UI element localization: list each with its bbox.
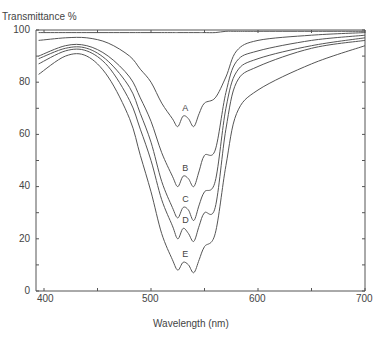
x-tick-400: 400 (37, 293, 54, 304)
plot-frame (36, 30, 365, 291)
curve-label-b: B (182, 163, 188, 173)
x-tick-600: 600 (249, 293, 266, 304)
x-tick-700: 700 (356, 293, 373, 304)
curve-top-reference- (39, 31, 365, 32)
y-tick-80: 80 (0, 76, 30, 87)
y-axis-title: Transmittance % (2, 11, 77, 22)
curve-label-d: D (182, 215, 189, 225)
y-tick-60: 60 (0, 128, 30, 139)
axis-ticks (36, 30, 365, 291)
y-tick-20: 20 (0, 233, 30, 244)
curve-b (39, 35, 365, 187)
y-tick-0: 0 (0, 285, 30, 296)
curve-d (39, 40, 365, 241)
curve-label-a: A (182, 103, 188, 113)
curve-c (39, 38, 365, 221)
x-axis-title: Wavelength (nm) (153, 318, 229, 329)
curve-a (39, 33, 365, 127)
y-tick-100: 100 (0, 24, 30, 35)
curves (39, 31, 365, 273)
curve-label-c: C (182, 194, 189, 204)
curve-labels: ABCDE (182, 103, 189, 259)
curve-label-e: E (182, 249, 188, 259)
transmittance-chart: ABCDE (0, 0, 384, 341)
curve-e (39, 46, 365, 273)
x-tick-500: 500 (142, 293, 159, 304)
y-tick-40: 40 (0, 180, 30, 191)
